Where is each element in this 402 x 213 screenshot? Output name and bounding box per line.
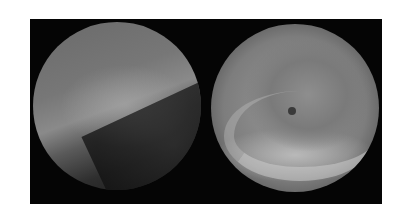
left-endoscopic-view — [33, 22, 201, 190]
lesion-dark-spot — [288, 107, 296, 115]
right-endoscopic-view — [211, 24, 379, 192]
